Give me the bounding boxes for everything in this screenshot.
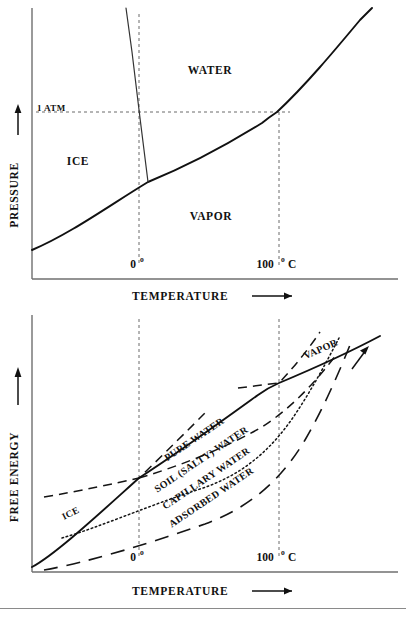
free-energy-svg: ICE VAPOR PURE WATER SOIL (SALTY) WATER … (0, 305, 406, 617)
region-label-water: WATER (188, 64, 232, 76)
x-tick-zero-value-2: 0 (130, 551, 136, 563)
curve-label-vapor: VAPOR (302, 336, 340, 361)
y-axis-arrow-icon-2 (15, 367, 22, 405)
one-atm-label: 1 ATM (37, 103, 66, 113)
x-tick-hundred-value-2: 100 (256, 551, 274, 563)
fusion-curve (126, 8, 148, 182)
ice-tangent-line (44, 412, 206, 497)
region-label-vapor: VAPOR (190, 210, 232, 222)
x-axis-title: TEMPERATURE (132, 290, 228, 302)
y-axis-title: PRESSURE (8, 162, 20, 228)
x-tick-zero-degree-2: 0 o (130, 548, 144, 563)
x-tick-zero-degree-sup-2: o (140, 548, 144, 557)
phase-diagram-panel: WATER ICE VAPOR 1 ATM 0 o 100 o C TEMPER… (0, 0, 406, 310)
region-label-ice: ICE (67, 155, 89, 167)
phase-diagram-svg: WATER ICE VAPOR 1 ATM 0 o 100 o C TEMPER… (0, 0, 406, 310)
figure-root: WATER ICE VAPOR 1 ATM 0 o 100 o C TEMPER… (0, 0, 406, 617)
x-tick-hundred-degree: 100 o C (256, 255, 296, 270)
x-tick-hundred-degree-sup-2: o (281, 548, 285, 557)
y-axis-arrow-icon (15, 104, 22, 135)
x-tick-hundred-unit-2: C (288, 551, 296, 563)
x-tick-hundred-unit: C (288, 258, 296, 270)
x-axis-title-2: TEMPERATURE (132, 585, 228, 597)
x-axis-arrow-icon (252, 293, 292, 300)
x-tick-zero-degree: 0 o (130, 255, 144, 270)
x-tick-hundred-degree-sup: o (281, 255, 285, 264)
free-energy-panel: ICE VAPOR PURE WATER SOIL (SALTY) WATER … (0, 305, 406, 617)
y-axis-title-2: FREE ENERGY (8, 432, 20, 522)
curve-label-pure-water: PURE WATER (162, 415, 226, 463)
x-tick-hundred-degree-2: 100 o C (256, 548, 296, 563)
curve-label-ice: ICE (60, 505, 81, 522)
x-tick-zero-value: 0 (130, 258, 136, 270)
x-axis-arrow-icon-2 (252, 588, 292, 595)
x-tick-hundred-value: 100 (256, 258, 274, 270)
bottom-divider-rule (0, 608, 406, 609)
x-tick-zero-degree-sup: o (140, 255, 144, 264)
